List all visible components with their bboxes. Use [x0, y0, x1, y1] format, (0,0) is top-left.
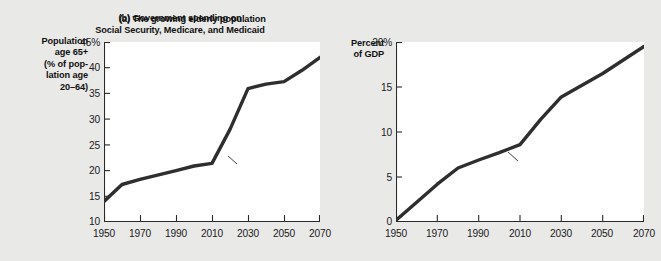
panel-b-x-tick-2010: 2010 [500, 228, 540, 239]
panel-a-y-tick-15: 15 [60, 191, 100, 202]
panel-b-y-tick-10: 10 [352, 127, 392, 138]
y-axis-label-line: of GDP [322, 49, 384, 60]
panel-a-x-tick-2010: 2010 [192, 228, 232, 239]
panel-a-y-tick-25: 25 [60, 140, 100, 151]
panel-b-y-tick-marks [397, 43, 403, 178]
panel-a-x-tick-1970: 1970 [120, 228, 160, 239]
panel-a-plot-area [104, 42, 320, 222]
panel-b-title-line: Social Security, Medicare, and Medicaid [30, 25, 330, 37]
panel-b-annotation-leader [508, 152, 518, 161]
panel-b-y-tick-15: 15 [352, 82, 392, 93]
panel-b-plot-area [396, 42, 644, 222]
panel-b-x-tick-1990: 1990 [458, 228, 498, 239]
panel-a-x-tick-2050: 2050 [264, 228, 304, 239]
chart-panel-a: (a) The growing elderly population Popul… [0, 0, 330, 261]
panel-a-x-tick-1990: 1990 [156, 228, 196, 239]
panel-b-y-tick-5: 5 [352, 172, 392, 183]
panel-a-y-tick-20: 20 [60, 165, 100, 176]
y-axis-label-line: age 65+ [6, 47, 88, 58]
panel-b-data-line [396, 47, 644, 221]
panel-b-title-line: (b) Government spending on [30, 13, 330, 25]
panel-a-y-tick-10: 10 [60, 216, 100, 227]
figure-canvas: (a) The growing elderly population Popul… [0, 0, 661, 261]
panel-b-y-tick-20: 20% [352, 37, 392, 48]
panel-a-x-tick-1950: 1950 [84, 228, 124, 239]
panel-a-axis-lines [105, 42, 321, 222]
panel-a-y-tick-40: 40 [60, 62, 100, 73]
panel-a-x-tick-marks [105, 215, 320, 222]
panel-a-y-tick-35: 35 [60, 88, 100, 99]
panel-a-x-tick-2030: 2030 [228, 228, 268, 239]
panel-b-x-tick-2050: 2050 [582, 228, 622, 239]
panel-b-x-tick-2030: 2030 [541, 228, 581, 239]
panel-a-annotation-leader [228, 156, 237, 164]
panel-a-y-tick-45: 45% [60, 37, 100, 48]
panel-a-data-line [104, 57, 320, 201]
panel-a-y-tick-30: 30 [60, 114, 100, 125]
panel-b-y-tick-0: 0 [352, 216, 392, 227]
panel-b-x-tick-marks [397, 215, 644, 222]
panel-b-x-tick-1970: 1970 [417, 228, 457, 239]
panel-b-x-tick-1950: 1950 [376, 228, 416, 239]
panel-a-y-tick-marks [105, 43, 111, 197]
panel-b-x-tick-2070: 2070 [624, 228, 661, 239]
panel-b-title: (b) Government spending on Social Securi… [30, 13, 330, 36]
